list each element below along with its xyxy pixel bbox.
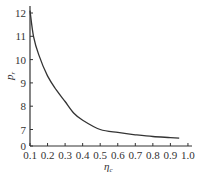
x-tick-label: 1.0 — [181, 149, 195, 161]
x-tick-label: 0.6 — [111, 149, 125, 161]
data-curve — [30, 11, 179, 139]
x-tick-label: 0.9 — [164, 149, 178, 161]
y-axis-label: pr — [3, 72, 17, 82]
x-tick-label: 0.8 — [146, 149, 160, 161]
y-tick-label: 8 — [21, 100, 27, 112]
y-tick-label: 11 — [15, 30, 26, 42]
x-tick-label: 0.4 — [76, 149, 90, 161]
y-tick-label: 10 — [15, 54, 27, 66]
chart-canvas: 0789101112 0.10.20.30.40.50.60.70.80.91.… — [0, 0, 200, 176]
y-tick-label: 9 — [21, 77, 27, 89]
x-tick-label: 0.7 — [128, 149, 142, 161]
y-tick-label: 7 — [21, 124, 27, 136]
y-tick-label: 12 — [15, 7, 26, 19]
x-axis-label: ηc — [104, 160, 113, 174]
x-tick-label: 0.2 — [41, 149, 55, 161]
x-tick-label: 0.3 — [58, 149, 72, 161]
x-tick-label: 0.1 — [23, 149, 37, 161]
